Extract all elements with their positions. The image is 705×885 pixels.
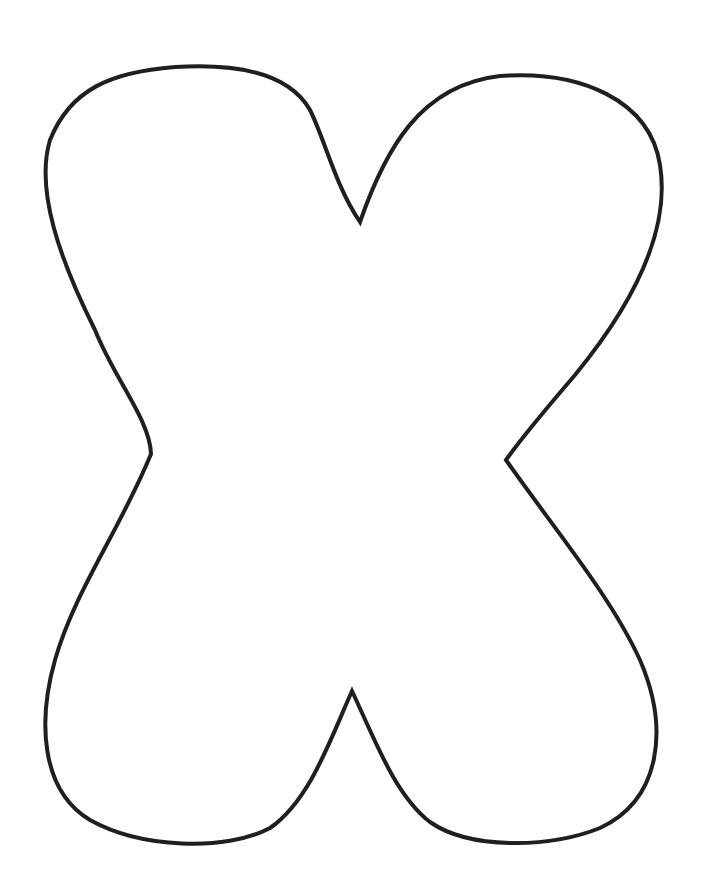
bubble-letter-x-outline xyxy=(0,0,705,885)
letter-x-shape xyxy=(45,66,661,843)
coloring-page-canvas xyxy=(0,0,705,885)
